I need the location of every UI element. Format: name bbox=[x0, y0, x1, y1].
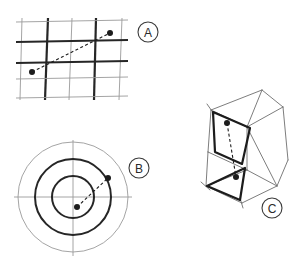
panel-a-point-start bbox=[29, 69, 35, 75]
panel-c-point-start bbox=[224, 120, 230, 126]
panel-label-letter-a: A bbox=[144, 26, 152, 40]
panel-label-letter-b: B bbox=[135, 162, 143, 176]
panel-label-letter-c: C bbox=[268, 202, 277, 216]
figure-root: ABC bbox=[0, 0, 301, 261]
panel-b-point-start bbox=[74, 204, 80, 210]
figure-canvas: ABC bbox=[0, 0, 301, 261]
panel-a-point-end bbox=[107, 30, 113, 36]
panel-c-point-end bbox=[233, 174, 239, 180]
panel-b-point-end bbox=[105, 175, 111, 181]
